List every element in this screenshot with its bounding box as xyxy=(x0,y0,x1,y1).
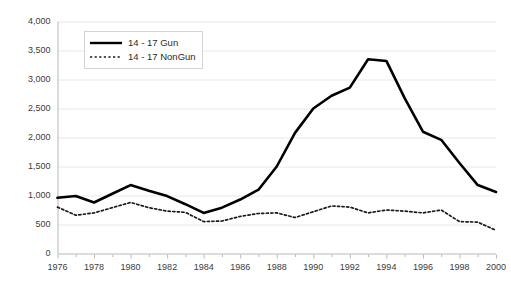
x-axis-tick-label: 1994 xyxy=(366,263,406,272)
x-axis-tick-label: 1990 xyxy=(293,263,333,272)
x-axis-ticks xyxy=(58,255,497,259)
x-axis-tick-label: 1998 xyxy=(439,263,479,272)
x-axis-tick-label: 1996 xyxy=(403,263,443,272)
x-axis-tick-label: 1984 xyxy=(184,263,224,272)
legend-swatch-solid-line-icon xyxy=(90,38,122,48)
series-line-1 xyxy=(58,59,497,213)
x-axis-tick-label: 1976 xyxy=(38,263,78,272)
x-axis-tick-label: 1988 xyxy=(257,263,297,272)
y-axis-tick-label: 0 xyxy=(45,249,50,258)
x-axis-tick-label: 1992 xyxy=(330,263,370,272)
x-axis-tick-label: 1986 xyxy=(220,263,260,272)
chart-legend: 14 - 17 Gun14 - 17 NonGun xyxy=(84,31,203,69)
x-axis-tick-label: 1978 xyxy=(74,263,114,272)
legend-item: 14 - 17 Gun xyxy=(90,36,196,50)
y-axis-tick-label: 2,500 xyxy=(28,104,51,113)
y-axis-tick-label: 3,500 xyxy=(28,46,51,55)
legend-swatch-dotted-line-icon xyxy=(90,52,122,62)
legend-label: 14 - 17 Gun xyxy=(128,38,178,48)
x-axis-tick-label: 1982 xyxy=(147,263,187,272)
y-axis-tick-label: 1,000 xyxy=(28,191,51,200)
y-axis-tick-label: 500 xyxy=(35,220,50,229)
y-axis-tick-label: 2,000 xyxy=(28,133,51,142)
x-axis-tick-label: 1980 xyxy=(111,263,151,272)
y-axis-tick-label: 3,000 xyxy=(28,75,51,84)
legend-item: 14 - 17 NonGun xyxy=(90,50,196,64)
y-axis-tick-label: 1,500 xyxy=(28,162,51,171)
legend-label: 14 - 17 NonGun xyxy=(128,52,196,62)
series-line-2 xyxy=(58,202,497,230)
x-axis-tick-label: 2000 xyxy=(476,263,511,272)
y-axis-tick-label: 4,000 xyxy=(28,17,51,26)
